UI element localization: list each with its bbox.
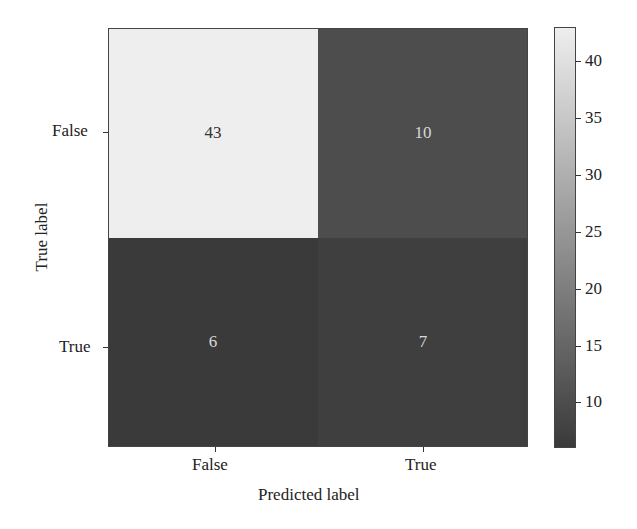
colorbar-tick-label: 25 [585,222,602,242]
x-tick-label-true: True [405,455,437,475]
x-axis-title: Predicted label [258,485,360,505]
x-tick-true [423,447,424,452]
cell-value: 43 [205,123,222,143]
colorbar-tick [576,118,581,119]
colorbar-tick [576,402,581,403]
colorbar-tick-label: 40 [585,51,602,71]
colorbar-tick [576,289,581,290]
colorbar-tick-label: 30 [585,165,602,185]
cell-value: 10 [415,123,432,143]
confusion-matrix-figure: 431067 False True False True Predicted l… [0,0,637,529]
colorbar-tick [576,61,581,62]
y-tick-false [103,132,108,133]
cell-value: 7 [419,332,428,352]
y-axis-title: True label [32,192,52,282]
colorbar-tick [576,232,581,233]
x-tick-label-false: False [192,455,228,475]
cell-value: 6 [209,332,218,352]
y-tick-label-false: False [52,121,88,141]
colorbar-tick-label: 10 [585,392,602,412]
colorbar-tick [576,346,581,347]
colorbar-tick-label: 35 [585,108,602,128]
y-tick-true [103,347,108,348]
colorbar-tick-label: 15 [585,336,602,356]
x-tick-false [215,447,216,452]
colorbar-tick [576,175,581,176]
y-tick-label-true: True [59,337,91,357]
colorbar [554,27,576,448]
colorbar-tick-label: 20 [585,279,602,299]
